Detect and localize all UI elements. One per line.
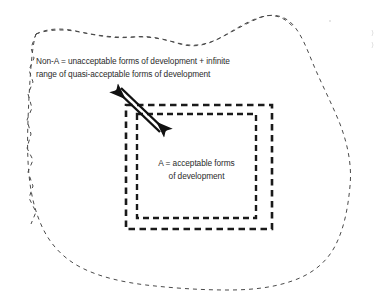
arrow-inward [121,88,166,131]
diagram-canvas: Non-A = unacceptable forms of developmen… [0,0,389,307]
scan-speck-3 [372,42,373,48]
non-acceptable-label-line-2: range of quasi-acceptable forms of devel… [36,68,230,81]
non-acceptable-region-label: Non-A = unacceptable forms of developmen… [36,55,230,80]
non-acceptable-label-line-1: Non-A = unacceptable forms of developmen… [36,55,230,68]
scan-speck-2 [372,30,373,36]
scan-speck-1 [329,20,331,22]
acceptable-label-line-2: of development [137,170,256,183]
acceptable-region-label: A = acceptable forms of development [137,157,256,183]
acceptable-label-line-1: A = acceptable forms [137,157,256,170]
diagram-vector-layer [0,0,389,307]
